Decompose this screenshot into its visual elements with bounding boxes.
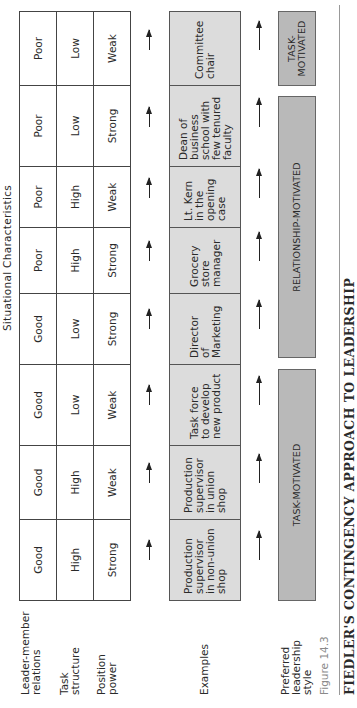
example-box-2: Production supervisor in union shop [169,445,241,520]
arrow-icon [149,30,150,50]
cell-leader-member-4: Good [19,293,57,365]
arrow-icon [259,531,260,560]
style-box-task-motivated-1: TASK-MOTIVATED [278,369,316,601]
cell-task-structure-1: High [56,519,94,601]
example-box-4: Director of Marketing [169,293,241,365]
cell-leader-member-1: Good [19,519,57,601]
cell-position-power-4: Strong [93,293,131,365]
example-box-5: Grocery store manager [169,227,241,294]
row-label-examples: Examples [199,603,210,695]
caption-divider [339,5,340,695]
arrow-icon [149,178,150,198]
cell-position-power-1: Strong [93,519,131,601]
arrow-icon [149,540,150,560]
row-label-position-power: Position power [96,603,118,695]
cell-leader-member-5: Poor [19,227,57,294]
arrow-icon [149,309,150,329]
cell-task-structure-7: Low [56,85,94,167]
cell-task-structure-5: High [56,227,94,294]
example-box-6: Lt. Kern in the opening case [169,166,241,228]
cell-leader-member-8: Poor [19,11,57,86]
cell-position-power-2: Weak [93,445,131,520]
cell-leader-member-3: Good [19,364,57,446]
row-label-task-structure: Task structure [59,603,81,695]
style-box-relationship-motivated: RELATIONSHIP-MOTIVATED [278,96,316,358]
cell-position-power-3: Weak [93,364,131,446]
cell-task-structure-6: High [56,166,94,228]
cell-leader-member-7: Poor [19,85,57,167]
figure-title: FIEDLER'S CONTINGENCY APPROACH TO LEADER… [342,278,357,695]
cell-position-power-7: Strong [93,85,131,167]
arrow-icon [259,21,260,50]
situational-characteristics-header: Situational Characteristics [0,148,15,368]
row-label-preferred-style: Preferred leadership style [280,603,313,695]
arrow-icon [259,169,260,198]
example-box-8: Committee chair [169,11,241,86]
example-box-1: Production supervisor in non-union shop [169,519,241,601]
cell-task-structure-2: High [56,445,94,520]
cell-leader-member-6: Poor [19,166,57,228]
arrow-icon [149,107,150,127]
arrow-icon [259,376,260,405]
cell-task-structure-8: Low [56,11,94,86]
example-box-7: Dean of business school with few tenured… [169,85,241,167]
arrow-icon [149,385,150,405]
arrow-icon [149,463,150,483]
cell-position-power-8: Weak [93,11,131,86]
arrow-icon [259,454,260,483]
example-box-3: Task force to develop new product [169,364,241,446]
cell-position-power-6: Weak [93,166,131,228]
cell-task-structure-4: Low [56,293,94,365]
style-box-task-motivated-2: TASK- MOTIVATED [278,11,316,86]
cell-task-structure-3: Low [56,364,94,446]
cell-position-power-5: Strong [93,227,131,294]
row-label-leader-member: Leader-member relations [20,603,42,695]
arrow-icon [149,241,150,261]
arrow-icon [259,300,260,329]
arrow-icon [259,98,260,127]
arrow-icon [259,232,260,261]
figure-number: Figure 14.3 [318,636,330,695]
cell-leader-member-2: Good [19,445,57,520]
